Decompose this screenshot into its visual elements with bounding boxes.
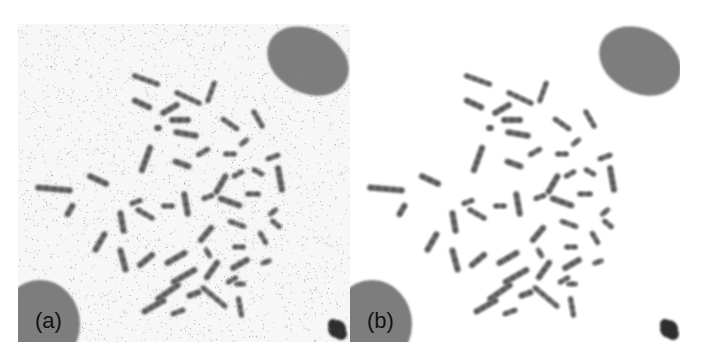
chromosome: [592, 258, 605, 267]
chromosome: [203, 258, 222, 281]
panel-label-b: (b): [367, 310, 394, 332]
chromosome: [154, 125, 162, 131]
chromosome: [238, 136, 250, 148]
chromosome: [154, 281, 182, 303]
chromosome: [212, 172, 229, 196]
chromosome: [517, 288, 534, 299]
chromosome: [227, 218, 248, 230]
chromosome: [136, 251, 157, 270]
chromosome: [205, 80, 218, 104]
chromosome: [234, 282, 246, 287]
chromosome: [549, 195, 575, 210]
chromosome: [577, 192, 593, 197]
chromosome: [559, 218, 580, 230]
chromosome: [134, 206, 156, 221]
panel-label-a: (a): [35, 310, 62, 332]
chromosome: [449, 210, 459, 235]
chromosome: [423, 230, 440, 254]
chromosome: [229, 256, 251, 272]
chromosome: [502, 307, 519, 317]
chromosome: [493, 204, 507, 209]
chromosome: [513, 191, 523, 218]
chromosome: [260, 258, 273, 267]
chromosome: [86, 172, 110, 188]
chromosome: [232, 245, 246, 250]
chromosome: [257, 230, 269, 246]
chromosome: [552, 116, 573, 133]
chromosome: [395, 202, 408, 219]
chromosome: [537, 80, 550, 104]
chromosome: [170, 266, 199, 286]
chromosome: [117, 247, 130, 274]
chromosome: [463, 73, 493, 88]
top-right-nucleus: [587, 24, 680, 109]
chromosome: [267, 206, 279, 218]
chromosome: [461, 197, 476, 206]
chromosome: [140, 296, 167, 315]
chromosome: [201, 192, 216, 201]
chromosome: [269, 218, 283, 231]
chromosome: [589, 230, 601, 246]
chromosome: [501, 117, 523, 123]
chromosome: [566, 282, 578, 287]
chromosome: [91, 230, 108, 254]
chromosome: [463, 97, 485, 112]
debris-blob: [660, 319, 679, 340]
chromosome: [561, 256, 583, 272]
chromosome: [129, 197, 144, 206]
chromosome: [418, 172, 442, 188]
chromosome: [597, 152, 614, 162]
chromosome: [275, 165, 286, 194]
chromosome: [502, 266, 531, 286]
top-right-nucleus: [255, 24, 350, 109]
chromosome: [583, 166, 598, 177]
chromosome: [35, 184, 73, 193]
chromosome: [582, 108, 597, 130]
chromosome: [236, 296, 245, 319]
chromosome: [449, 247, 462, 274]
chromosome: [173, 129, 200, 139]
chromosome: [564, 245, 578, 250]
chromosome: [63, 202, 76, 219]
chromosome: [570, 136, 582, 148]
chromosome: [131, 73, 161, 88]
chromosome: [531, 284, 560, 310]
chromosome: [181, 191, 191, 218]
chromosome: [599, 206, 611, 218]
chromosome: [367, 184, 405, 193]
chromosome-spread-a: [18, 24, 350, 342]
chromosome: [533, 192, 548, 201]
chromosome: [601, 218, 615, 231]
chromosome: [170, 307, 187, 317]
chromosome-spread-b: [350, 24, 680, 342]
chromosome: [472, 296, 499, 315]
chromosome: [169, 117, 191, 123]
chromosome: [563, 168, 578, 179]
chromosome: [535, 247, 545, 260]
chromosome: [568, 296, 577, 319]
chromosome: [203, 247, 213, 260]
chromosome: [486, 281, 514, 303]
chromosome: [495, 249, 521, 267]
chromosome: [466, 206, 488, 221]
chromosome: [163, 249, 189, 267]
panel-a-noisy: (a): [18, 24, 350, 342]
chromosome: [199, 284, 228, 310]
chromosome: [265, 152, 282, 162]
chromosome: [504, 158, 525, 170]
chromosome: [172, 158, 193, 170]
chromosome: [529, 224, 548, 245]
chromosome: [220, 116, 241, 133]
chromosome: [138, 144, 154, 174]
chromosome: [117, 210, 127, 235]
chromosome: [535, 258, 554, 281]
chromosome: [527, 146, 543, 158]
panel-b-denoised: (b): [350, 24, 680, 342]
chromosome: [197, 224, 216, 245]
chromosome: [505, 129, 532, 139]
chromosome: [607, 165, 618, 194]
chromosome: [131, 97, 153, 112]
chromosome: [491, 101, 513, 117]
chromosome: [555, 152, 569, 157]
chromosome: [544, 172, 561, 196]
